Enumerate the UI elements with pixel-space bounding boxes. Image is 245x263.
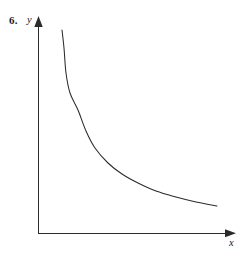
problem-number-label: 6. bbox=[9, 15, 18, 26]
decay-curve bbox=[62, 30, 217, 206]
arrow-up-icon bbox=[34, 16, 42, 27]
x-axis-label: x bbox=[229, 238, 234, 249]
figure-canvas bbox=[0, 0, 245, 263]
arrow-right-icon bbox=[225, 229, 236, 237]
figure-container: 6. y x bbox=[0, 0, 245, 263]
y-axis-label: y bbox=[27, 15, 32, 26]
